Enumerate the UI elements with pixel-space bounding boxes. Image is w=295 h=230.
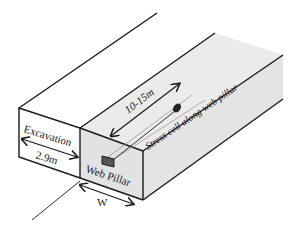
web-pillar-diagram: 10-15m Stress cell along web pillar Exca… xyxy=(0,0,295,230)
leader-line xyxy=(32,181,80,220)
pillar-width-label: W xyxy=(97,196,108,208)
